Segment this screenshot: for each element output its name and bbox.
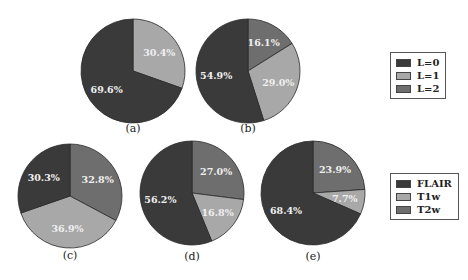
pie-a-graphic: 30.4%69.6% xyxy=(80,18,186,124)
legend-item-l2: L=2 xyxy=(396,82,439,95)
pie-chart-b: 16.1%29.0%54.9% xyxy=(195,18,301,124)
legend-item-t2w: T2w xyxy=(396,203,452,216)
pie-c-graphic: 32.8%36.9%30.3% xyxy=(17,143,123,249)
pie-chart-c: 32.8%36.9%30.3% xyxy=(17,143,123,249)
pie-chart-a: 30.4%69.6% xyxy=(80,18,186,124)
legend-item-l0: L=0 xyxy=(396,56,439,69)
pie-slice-label: 54.9% xyxy=(200,70,232,81)
legend-label-l0: L=0 xyxy=(417,57,439,68)
pie-slice-label: 30.3% xyxy=(28,172,60,183)
pie-slice-label: 29.0% xyxy=(262,77,294,88)
pie-slice-label: 7.7% xyxy=(332,193,358,204)
pie-slice-label: 32.8% xyxy=(82,174,114,185)
pie-chart-e: 23.9%7.7%68.4% xyxy=(260,140,366,246)
legend-item-l1: L=1 xyxy=(396,69,439,82)
caption-d: (d) xyxy=(172,250,212,263)
legend-swatch-t1w xyxy=(396,193,411,201)
caption-b: (b) xyxy=(228,122,268,135)
pie-d-graphic: 27.0%16.8%56.2% xyxy=(139,140,245,246)
pie-slice-label: 27.0% xyxy=(200,166,232,177)
pie-chart-d: 27.0%16.8%56.2% xyxy=(139,140,245,246)
pie-b-graphic: 16.1%29.0%54.9% xyxy=(195,18,301,124)
legend-label-flair: FLAIR xyxy=(417,178,452,189)
legend-item-flair: FLAIR xyxy=(396,177,452,190)
legend-label-l1: L=1 xyxy=(417,70,439,81)
pie-e-graphic: 23.9%7.7%68.4% xyxy=(260,140,366,246)
legend-item-t1w: T1w xyxy=(396,190,452,203)
legend-swatch-t2w xyxy=(396,206,411,214)
caption-a: (a) xyxy=(113,122,153,135)
pie-slice-label: 16.8% xyxy=(202,207,234,218)
legend-swatch-flair xyxy=(396,180,411,188)
pie-slice-label: 36.9% xyxy=(51,223,83,234)
legend-label-l2: L=2 xyxy=(417,83,439,94)
pie-slice-label: 69.6% xyxy=(91,84,123,95)
pie-slice-label: 23.9% xyxy=(319,164,351,175)
legend-label-t1w: T1w xyxy=(417,191,440,202)
pie-slice-label: 30.4% xyxy=(143,47,175,58)
pie-slice-label: 68.4% xyxy=(270,205,302,216)
legend-label-t2w: T2w xyxy=(417,204,440,215)
pie-slice-label: 56.2% xyxy=(144,194,176,205)
legend-level: L=0 L=1 L=2 xyxy=(390,52,446,99)
caption-e: (e) xyxy=(293,250,333,263)
caption-c: (c) xyxy=(50,249,90,262)
pie-slice-label: 16.1% xyxy=(248,37,280,48)
legend-modality: FLAIR T1w T2w xyxy=(390,173,459,220)
legend-swatch-l2 xyxy=(396,85,411,93)
legend-swatch-l0 xyxy=(396,59,411,67)
legend-swatch-l1 xyxy=(396,72,411,80)
